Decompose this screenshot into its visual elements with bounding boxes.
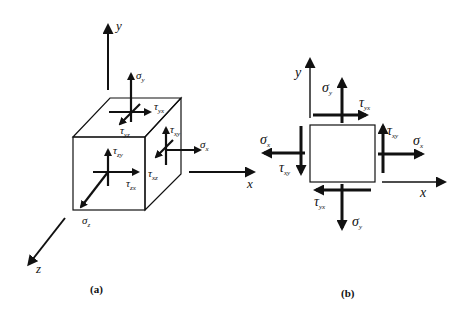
b-y-axis-label: y — [293, 65, 302, 80]
b-sigma-x-left-label: σx — [260, 132, 271, 149]
b-sigma-y-top-label: σy — [322, 80, 333, 97]
b-tau-xy-right-label: τxy — [387, 123, 399, 140]
tau-xz-arrow — [156, 140, 173, 157]
b-tau-yx-bottom-label: τyx — [314, 194, 326, 211]
tau-yx-label: τyx — [154, 100, 165, 115]
b-sigma-y-bottom-label: σy — [352, 214, 363, 231]
z-axis-label: z — [35, 261, 41, 276]
b-tau-yx-top-label: τyx — [359, 95, 371, 112]
caption-b: (b) — [341, 287, 355, 300]
sigma-y-label: σy — [136, 69, 145, 84]
caption-a: (a) — [90, 283, 103, 296]
sigma-z-label: σz — [82, 214, 90, 229]
stress-diagram: y σy τyx τyz τxy σx τxz τzy τzx σz x — [0, 0, 464, 309]
plane-element — [310, 125, 375, 182]
tau-xy-label: τxy — [170, 123, 181, 138]
b-sigma-x-right-label: σx — [413, 133, 424, 150]
sigma-x-label: σx — [200, 138, 209, 153]
tau-zx-label: τzx — [126, 177, 137, 192]
tau-zy-label: τzy — [113, 144, 124, 159]
z-axis-arrow — [29, 218, 65, 264]
panel-b: y σy τyx τxy σx σx τxy τyx σy x (b) — [260, 60, 444, 300]
panel-a: y σy τyx τyz τxy σx τxz τzy τzx σz x — [29, 18, 253, 296]
b-tau-xy-left-label: τxy — [279, 160, 291, 177]
tau-xz-label: τxz — [148, 167, 158, 182]
x-axis-label: x — [246, 176, 253, 191]
b-x-axis-label: x — [419, 185, 427, 200]
sigma-z-arrow — [81, 172, 108, 207]
y-axis-label: y — [114, 18, 122, 33]
